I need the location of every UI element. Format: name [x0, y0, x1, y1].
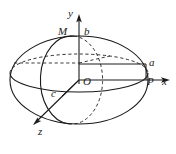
x-axis-label: x: [162, 76, 167, 87]
point-P-label: P: [147, 76, 154, 87]
origin-label: O: [83, 76, 91, 87]
ellipsoid-figure: y M b a P x O c z: [0, 0, 176, 154]
semi-axis-a-label: a: [149, 57, 155, 68]
z-axis-label: z: [38, 126, 42, 137]
meridian-front-arc: [40, 36, 74, 124]
semi-axis-b-label: b: [84, 26, 90, 37]
hidden-line-to-back-pole: [79, 56, 110, 63]
segment-origin-to-c: [62, 80, 79, 96]
semi-axis-c-label: c: [51, 88, 56, 99]
point-M-label: M: [58, 26, 67, 37]
y-axis-label: y: [68, 8, 73, 19]
